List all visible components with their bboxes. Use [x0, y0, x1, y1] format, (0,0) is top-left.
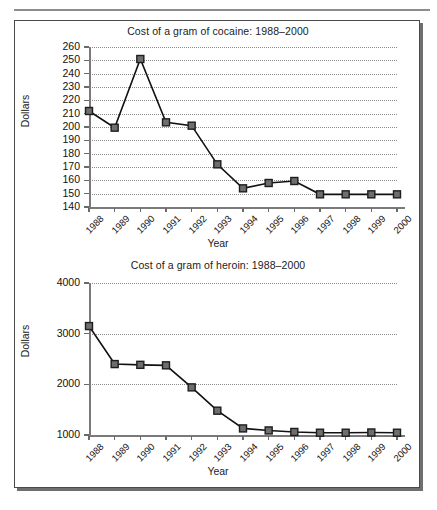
x-axis-tick	[242, 436, 244, 440]
page-canvas: Cost of a gram of cocaine: 1988–2000 Dol…	[0, 0, 437, 510]
x-axis-tick	[371, 208, 373, 212]
x-axis-tick	[217, 208, 219, 212]
x-axis-tick	[268, 208, 270, 212]
data-point-marker	[214, 407, 221, 414]
data-point-marker	[188, 384, 195, 391]
chart-heroin-title: Cost of a gram of heroin: 1988–2000	[15, 259, 421, 271]
data-series	[89, 47, 397, 207]
x-axis-tick	[88, 208, 90, 212]
y-axis-tick-label: 170	[40, 160, 80, 172]
x-axis-tick	[114, 436, 116, 440]
x-axis-tick	[217, 436, 219, 440]
x-axis-tick	[165, 436, 167, 440]
y-axis-tick-label: 3000	[40, 327, 80, 339]
data-point-marker	[240, 185, 247, 192]
data-point-marker	[86, 323, 93, 330]
x-axis-tick	[396, 208, 398, 212]
chart-heroin: Cost of a gram of heroin: 1988–2000 Doll…	[15, 259, 421, 485]
chart-heroin-plot-area: 1000200030004000198819891990199119921993…	[89, 283, 397, 435]
data-point-marker	[111, 361, 118, 368]
data-point-marker	[291, 178, 298, 185]
data-point-marker	[265, 427, 272, 434]
data-point-marker	[214, 161, 221, 168]
x-axis-tick	[294, 208, 296, 212]
data-point-marker	[342, 429, 349, 436]
x-axis-tick	[191, 208, 193, 212]
x-axis-tick	[165, 208, 167, 212]
data-point-marker	[111, 124, 118, 131]
y-axis-tick-label: 180	[40, 147, 80, 159]
data-point-marker	[137, 56, 144, 63]
x-axis-tick	[140, 208, 142, 212]
figure-box: Cost of a gram of cocaine: 1988–2000 Dol…	[14, 20, 420, 488]
y-axis-tick-label: 220	[40, 93, 80, 105]
y-axis-tick-label: 4000	[40, 276, 80, 288]
x-axis-tick	[294, 436, 296, 440]
x-axis-tick	[191, 436, 193, 440]
chart-heroin-y-axis-label: Dollars	[19, 325, 31, 358]
data-point-marker	[240, 425, 247, 432]
data-point-marker	[265, 180, 272, 187]
data-point-marker	[188, 122, 195, 129]
x-axis-tick	[114, 208, 116, 212]
chart-cocaine-title: Cost of a gram of cocaine: 1988–2000	[15, 25, 421, 37]
chart-cocaine: Cost of a gram of cocaine: 1988–2000 Dol…	[15, 25, 421, 255]
data-point-marker	[394, 191, 401, 198]
y-axis-tick-label: 150	[40, 187, 80, 199]
y-axis-tick-label: 230	[40, 80, 80, 92]
x-axis-line	[89, 207, 405, 209]
chart-cocaine-x-axis-label: Year	[15, 237, 421, 249]
y-axis-tick-label: 210	[40, 107, 80, 119]
chart-heroin-x-axis-label: Year	[15, 465, 421, 477]
data-point-marker	[342, 191, 349, 198]
header-rule	[14, 9, 430, 11]
y-axis-tick-label: 190	[40, 133, 80, 145]
data-point-marker	[137, 361, 144, 368]
data-series	[89, 283, 397, 435]
data-point-marker	[317, 191, 324, 198]
data-point-marker	[163, 362, 170, 369]
x-axis-tick	[345, 208, 347, 212]
y-axis-tick-label: 160	[40, 173, 80, 185]
y-axis-tick-label: 260	[40, 40, 80, 52]
data-point-marker	[291, 428, 298, 435]
x-axis-tick	[140, 436, 142, 440]
x-axis-line	[89, 435, 405, 437]
y-axis-tick-label: 1000	[40, 428, 80, 440]
series-line	[89, 59, 397, 194]
series-line	[89, 326, 397, 433]
y-axis-tick-label: 250	[40, 53, 80, 65]
x-axis-tick	[268, 436, 270, 440]
y-axis-tick-label: 240	[40, 67, 80, 79]
data-point-marker	[394, 429, 401, 436]
data-point-marker	[86, 108, 93, 115]
data-point-marker	[368, 429, 375, 436]
x-axis-tick	[319, 208, 321, 212]
y-axis-tick-label: 140	[40, 200, 80, 212]
data-point-marker	[368, 191, 375, 198]
y-axis-tick-label: 200	[40, 120, 80, 132]
y-axis-tick-label: 2000	[40, 377, 80, 389]
x-axis-tick	[242, 208, 244, 212]
chart-cocaine-plot-area: 1401501601701801902002102202302402502601…	[89, 47, 397, 207]
chart-cocaine-y-axis-label: Dollars	[19, 95, 31, 128]
x-axis-tick	[88, 436, 90, 440]
data-point-marker	[317, 429, 324, 436]
data-point-marker	[163, 119, 170, 126]
